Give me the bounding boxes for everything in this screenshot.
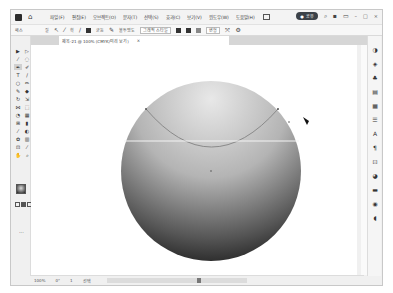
graphic-style-field[interactable]: 그래픽 스타일 [140, 27, 171, 34]
workspace-icon[interactable]: ▪ [333, 13, 337, 19]
lasso-tool-icon[interactable]: ◌ [23, 56, 31, 62]
layers-icon[interactable]: ◈ [370, 60, 380, 68]
character-icon[interactable]: A [370, 130, 380, 138]
rotation-value[interactable]: 0° [55, 278, 60, 283]
pencil-tool-icon[interactable]: ✎ [14, 88, 22, 94]
search-icon[interactable]: ⌕ [324, 13, 327, 19]
anchor-point[interactable] [145, 108, 147, 110]
status-mode[interactable]: 선택 [83, 278, 91, 284]
menu-select[interactable]: 선택(S) [144, 14, 158, 20]
fill-stroke-widget[interactable] [16, 184, 30, 198]
paintbrush-tool-icon[interactable]: ✏ [23, 80, 31, 86]
slice-tool-icon[interactable]: ⁄ [23, 144, 31, 150]
transform-icon[interactable]: ⤧ [225, 27, 230, 33]
tools-panel: ▶ ▷ ⁄ ◌ ✒ ✐ T / ○ ✏ ✎ ◆ ↻ ⇲ ⋈ ⬚ ◔ ▦ ⊞ ▮ … [12, 36, 31, 276]
direct-selection-tool-icon[interactable]: ▷ [23, 48, 31, 54]
menu-window[interactable]: 윈도우(W) [209, 14, 229, 20]
curvature-tool-icon[interactable]: ✐ [23, 64, 31, 70]
menu-view[interactable]: 보기(V) [187, 14, 202, 20]
stroke-label: 획 [70, 27, 74, 33]
scrollbar-thumb[interactable] [197, 278, 201, 283]
perspective-tool-icon[interactable]: ▦ [23, 112, 31, 118]
anchor-point[interactable] [277, 108, 279, 110]
home-icon[interactable]: ⌂ [28, 14, 32, 21]
uniform-label[interactable]: 균등 [96, 27, 104, 33]
align-left-icon[interactable] [176, 28, 181, 33]
gradient-mode-icon[interactable] [21, 202, 26, 207]
selection-tool-icon[interactable]: ▶ [14, 48, 22, 54]
arrange-documents-icon[interactable] [263, 14, 270, 20]
zoom-tool-icon[interactable]: ⌕ [23, 152, 31, 158]
tool-grid: ▶ ▷ ⁄ ◌ ✒ ✐ T / ○ ✏ ✎ ◆ ↻ ⇲ ⋈ ⬚ ◔ ▦ ⊞ ▮ … [14, 48, 31, 158]
pen-tool-icon[interactable]: ✒ [14, 64, 22, 70]
menu-object[interactable]: 오브젝트(O) [93, 14, 116, 20]
properties-icon[interactable]: ◑ [370, 46, 380, 54]
width-tool-icon[interactable]: ⋈ [14, 104, 22, 110]
free-transform-tool-icon[interactable]: ⬚ [23, 104, 31, 110]
line-tool-icon[interactable]: / [23, 72, 31, 78]
stroke-swatch[interactable] [86, 28, 91, 33]
settings-icon[interactable]: ⚙ [235, 27, 240, 33]
symbol-sprayer-tool-icon[interactable]: ✿ [14, 136, 22, 142]
menu-bar: ⌂ 파일(F) 편집(E) 오브젝트(O) 문자(T) 선택(S) 효과(C) … [11, 10, 382, 24]
opacity-label[interactable]: 불투명도 [119, 27, 135, 33]
align-center-icon[interactable] [186, 28, 191, 33]
column-graph-tool-icon[interactable]: ▥ [23, 136, 31, 142]
menu-effect[interactable]: 효과(C) [166, 14, 181, 20]
eyedropper-icon[interactable]: ⁄ [64, 27, 65, 33]
fill-color-swatch[interactable] [16, 184, 26, 194]
transparency-icon[interactable]: ◖ [370, 214, 380, 222]
right-panel-dock: ◑ ◈ ♣ ▤ ▦ ☰ A ¶ ⊡ ◕ ▬ ◉ ◖ [367, 36, 381, 276]
brush-icon[interactable]: ✎ [109, 27, 114, 33]
align-icon[interactable]: ☰ [370, 116, 380, 124]
tab-close-icon[interactable]: × [137, 38, 140, 43]
menu-type[interactable]: 문자(T) [123, 14, 137, 20]
fill-swatch[interactable]: ↖ [54, 27, 59, 33]
artboard-number[interactable]: 1 [70, 278, 73, 283]
more-tools-icon[interactable]: ... [19, 228, 24, 234]
swatches-icon[interactable]: ▦ [370, 102, 380, 110]
panel-icon[interactable]: ▭ [343, 13, 349, 19]
ellipse-tool-icon[interactable]: ○ [14, 80, 22, 86]
menu-edit[interactable]: 편집(E) [72, 14, 86, 20]
artboard-tool-icon[interactable]: ⊡ [14, 144, 22, 150]
pen-cursor-icon [303, 117, 309, 125]
anchor-point[interactable] [288, 121, 290, 123]
libraries-icon[interactable]: ♣ [370, 74, 380, 82]
type-tool-icon[interactable]: T [14, 72, 22, 78]
transform-icon[interactable]: ⊡ [370, 158, 380, 166]
horizontal-scrollbar[interactable] [107, 278, 247, 283]
color-mode-buttons [15, 202, 32, 207]
menu-file[interactable]: 파일(F) [50, 14, 64, 20]
stroke-icon[interactable]: / [79, 27, 81, 33]
zoom-level[interactable]: 100% [34, 278, 45, 283]
paragraph-icon[interactable]: ¶ [370, 144, 380, 152]
user-icon: ● [300, 14, 304, 19]
eraser-tool-icon[interactable]: ◆ [23, 88, 31, 94]
status-bar: 100% 0° 1 선택 [31, 275, 364, 285]
transform-field[interactable]: 변형 [206, 27, 220, 34]
stroke-icon[interactable]: ▬ [370, 186, 380, 194]
shape-builder-tool-icon[interactable]: ◔ [14, 112, 22, 118]
appearance-icon[interactable]: ▤ [370, 88, 380, 96]
menu-help[interactable]: 도움말(H) [236, 14, 255, 20]
document-tab[interactable]: 제목-21 @ 100% (CMYK/미리 보기) × [59, 36, 229, 45]
hand-tool-icon[interactable]: ✋ [14, 152, 22, 158]
blend-tool-icon[interactable]: ◐ [23, 128, 31, 134]
gradient-icon[interactable]: ◉ [370, 200, 380, 208]
color-icon[interactable]: ◕ [370, 172, 380, 180]
magic-wand-tool-icon[interactable]: ⁄ [14, 56, 22, 62]
color-mode-icon[interactable] [15, 202, 20, 207]
scale-tool-icon[interactable]: ⇲ [23, 96, 31, 102]
maximize-button[interactable]: □ [363, 13, 368, 19]
eyedropper-tool-icon[interactable]: ⁄ [14, 128, 22, 134]
share-button[interactable]: ● 공유 [296, 12, 318, 20]
mesh-tool-icon[interactable]: ⊞ [14, 120, 22, 126]
close-button[interactable]: × [374, 13, 378, 19]
gradient-tool-icon[interactable]: ▮ [23, 120, 31, 126]
align-right-icon[interactable] [196, 28, 201, 33]
rotate-tool-icon[interactable]: ↻ [14, 96, 22, 102]
artboard-canvas[interactable] [31, 45, 357, 275]
document-tab-title: 제목-21 @ 100% (CMYK/미리 보기) [62, 38, 129, 44]
minimize-button[interactable]: – [355, 13, 358, 19]
